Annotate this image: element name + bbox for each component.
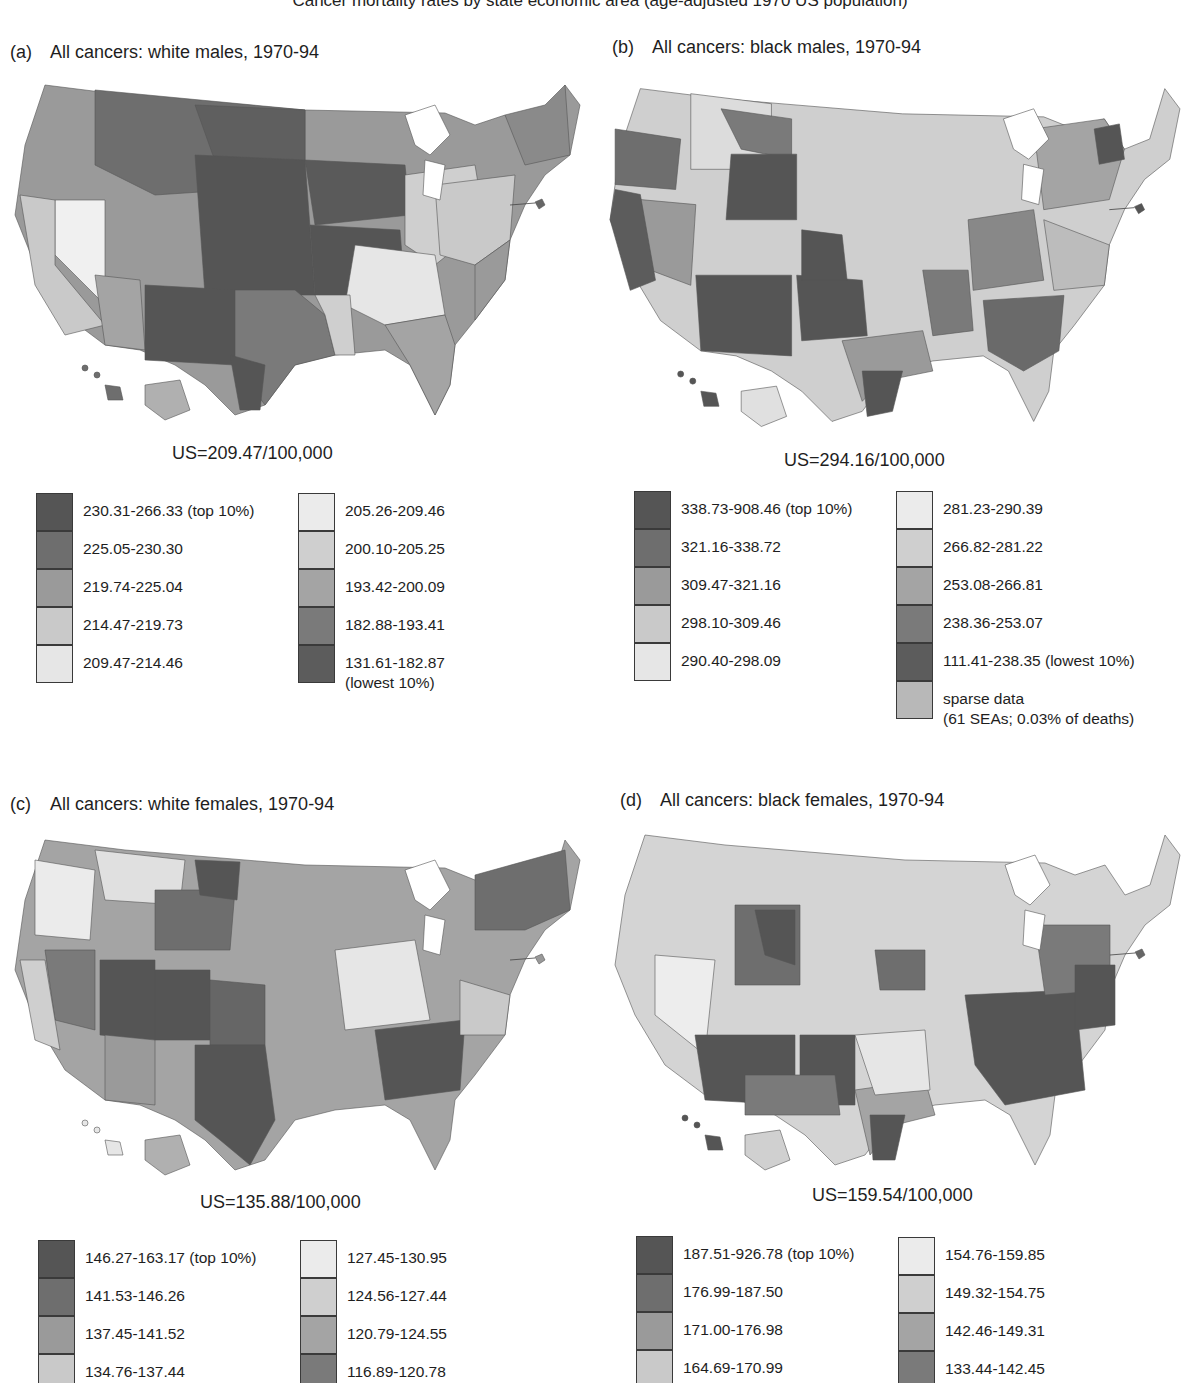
legend-swatch	[896, 491, 933, 529]
legend-swatch	[300, 1316, 337, 1354]
legend-swatch	[898, 1275, 935, 1313]
panel-b-title: (b)All cancers: black males, 1970-94	[612, 37, 921, 58]
panel-c-us-rate: US=135.88/100,000	[200, 1192, 361, 1213]
legend-swatch	[38, 1316, 75, 1354]
us-choropleth-map-a	[5, 65, 590, 425]
map-black-males	[600, 65, 1190, 435]
panel-c-heading: All cancers: white females, 1970-94	[50, 794, 334, 814]
page-title: Cancer mortality rates by state economic…	[180, 0, 1020, 11]
panel-a-title: (a)All cancers: white males, 1970-94	[10, 42, 319, 63]
legend-swatch	[298, 569, 335, 607]
legend-swatch	[636, 1312, 673, 1350]
legend-swatch	[896, 643, 933, 681]
legend-swatch	[896, 529, 933, 567]
legend-swatch	[38, 1354, 75, 1383]
legend-swatch	[634, 605, 671, 643]
legend-swatch	[898, 1237, 935, 1275]
panel-a-tag: (a)	[10, 42, 50, 63]
map-white-females	[5, 820, 590, 1180]
panel-a-heading: All cancers: white males, 1970-94	[50, 42, 319, 62]
us-choropleth-map-d	[605, 815, 1190, 1175]
panel-d-tag: (d)	[620, 790, 660, 811]
panel-d-title: (d)All cancers: black females, 1970-94	[620, 790, 944, 811]
legend-swatch	[896, 567, 933, 605]
panel-a-us-rate: US=209.47/100,000	[172, 443, 333, 464]
panel-d-heading: All cancers: black females, 1970-94	[660, 790, 944, 810]
legend-swatch	[36, 645, 73, 683]
legend-swatch	[300, 1278, 337, 1316]
legend-swatch	[38, 1278, 75, 1316]
panel-b-tag: (b)	[612, 37, 652, 58]
panel-d-us-rate: US=159.54/100,000	[812, 1185, 973, 1206]
map-black-females	[605, 815, 1190, 1175]
legend-swatch	[636, 1236, 673, 1274]
map-white-males	[5, 65, 590, 425]
legend-swatch	[636, 1350, 673, 1383]
legend-swatch	[36, 569, 73, 607]
legend-swatch	[300, 1240, 337, 1278]
legend-swatch	[36, 607, 73, 645]
us-choropleth-map-b	[600, 65, 1190, 435]
legend-swatch	[38, 1240, 75, 1278]
legend-swatch	[36, 493, 73, 531]
panel-b-us-rate: US=294.16/100,000	[784, 450, 945, 471]
panel-b-heading: All cancers: black males, 1970-94	[652, 37, 921, 57]
panel-c-title: (c)All cancers: white females, 1970-94	[10, 794, 334, 815]
legend-swatch	[898, 1313, 935, 1351]
panel-c-tag: (c)	[10, 794, 50, 815]
us-choropleth-map-c	[5, 820, 590, 1180]
legend-swatch-sparse	[896, 681, 933, 719]
legend-swatch	[634, 567, 671, 605]
legend-swatch	[636, 1274, 673, 1312]
legend-swatch	[300, 1354, 337, 1383]
legend-swatch	[298, 531, 335, 569]
legend-swatch	[298, 645, 335, 683]
legend-swatch	[298, 607, 335, 645]
legend-swatch	[634, 643, 671, 681]
legend-swatch	[634, 529, 671, 567]
legend-swatch	[634, 491, 671, 529]
legend-swatch	[298, 493, 335, 531]
legend-swatch	[36, 531, 73, 569]
legend-swatch	[896, 605, 933, 643]
legend-swatch	[898, 1351, 935, 1383]
